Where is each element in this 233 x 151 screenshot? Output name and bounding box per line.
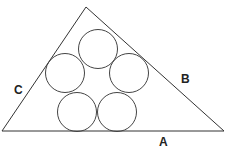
circle-1 bbox=[79, 30, 118, 69]
circle-5 bbox=[98, 93, 137, 132]
triangle bbox=[2, 7, 224, 131]
label-c: C bbox=[14, 84, 23, 96]
label-b: B bbox=[181, 73, 190, 85]
circle-4 bbox=[58, 93, 97, 132]
circle-3 bbox=[110, 54, 149, 93]
triangle-circles-figure bbox=[0, 0, 233, 151]
circle-2 bbox=[46, 54, 85, 93]
diagram-canvas: C B A bbox=[0, 0, 233, 151]
label-a: A bbox=[159, 136, 168, 148]
